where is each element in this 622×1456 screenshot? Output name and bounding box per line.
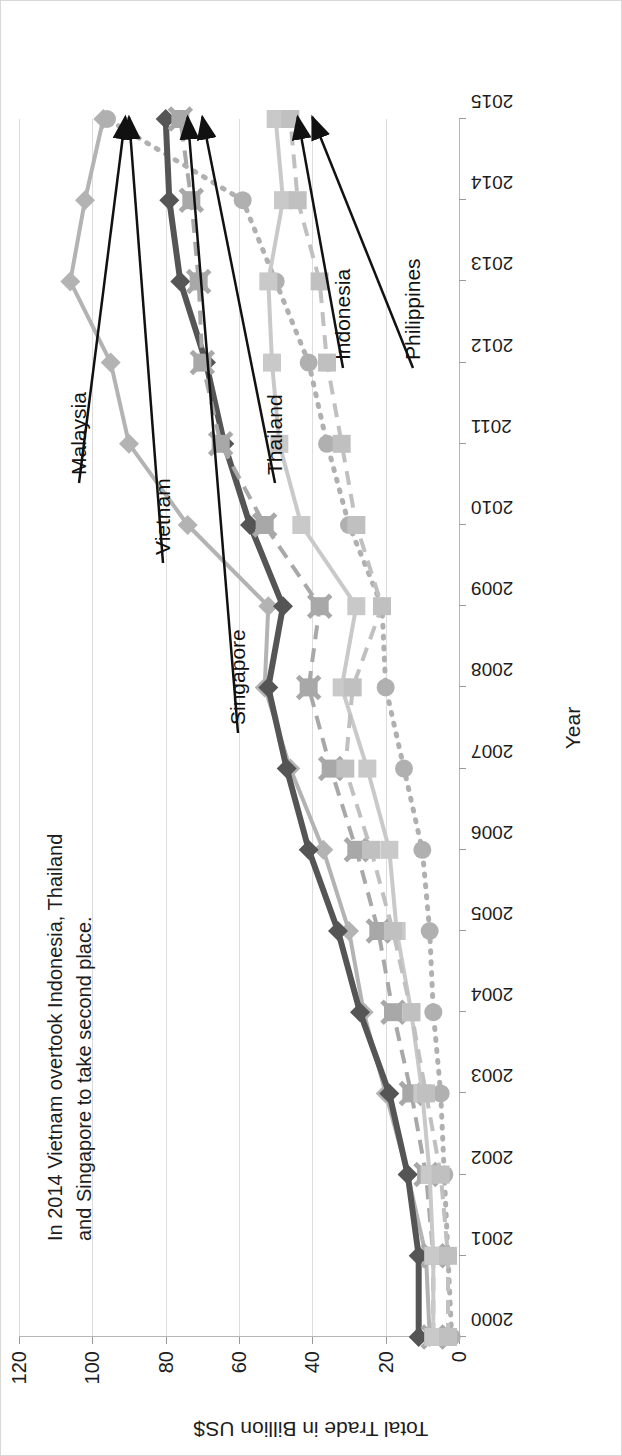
data-point (101, 353, 121, 373)
chart-stage: 020406080100120 200020012002200320042005… (0, 0, 622, 1456)
y-axis-tick (92, 1337, 93, 1344)
x-axis-tick (459, 443, 466, 444)
x-axis-tick-label: 2009 (471, 577, 513, 599)
y-axis-tick (19, 1337, 20, 1344)
x-axis-tick (459, 930, 466, 931)
series-label-indonesia: Indonesia (331, 269, 355, 360)
series-malaysia (60, 109, 439, 1347)
data-point (362, 841, 380, 859)
data-point (311, 272, 329, 290)
y-axis-tick (386, 1337, 387, 1344)
data-point (421, 922, 439, 940)
data-point (347, 597, 365, 615)
data-point (170, 271, 190, 291)
data-point (336, 760, 354, 778)
x-axis-tick (459, 1255, 466, 1256)
x-axis-tick-label: 2000 (471, 1308, 513, 1330)
data-point (384, 922, 402, 940)
data-point (382, 1001, 404, 1023)
y-axis-tick-label: 80 (155, 1351, 178, 1421)
data-point (188, 270, 210, 292)
data-point (439, 1247, 457, 1265)
data-point (417, 1084, 435, 1102)
data-point (169, 108, 191, 130)
x-axis-tick (459, 1174, 466, 1175)
x-axis-tick-label: 2005 (471, 902, 513, 924)
series-singapore (156, 109, 429, 1347)
data-point (439, 1328, 457, 1346)
data-point (191, 352, 213, 374)
data-point (377, 678, 395, 696)
x-axis-tick-label: 2004 (471, 983, 513, 1005)
data-point (159, 190, 179, 210)
data-point (299, 840, 319, 860)
x-axis-tick-label: 2015 (471, 90, 513, 112)
x-axis-tick (459, 280, 466, 281)
data-point (309, 595, 331, 617)
y-axis-title: Total Trade in Billion US$ (194, 1417, 429, 1441)
data-point (180, 189, 202, 211)
data-point (258, 677, 278, 697)
data-point (395, 760, 413, 778)
x-axis-tick-label: 2007 (471, 740, 513, 762)
data-point (380, 841, 398, 859)
data-point (300, 354, 318, 372)
data-point (98, 110, 116, 128)
x-axis-tick-label: 2008 (471, 658, 513, 680)
chart-page: 020406080100120 200020012002200320042005… (0, 0, 622, 1456)
y-axis-tick-label: 60 (228, 1351, 251, 1421)
x-axis-tick (459, 362, 466, 363)
x-axis-line (459, 119, 460, 1337)
x-axis-tick (459, 768, 466, 769)
y-axis-tick (166, 1337, 167, 1344)
chart-annotation: In 2014 Vietnam overtook Indonesia, Thai… (41, 821, 99, 1241)
data-point (75, 190, 95, 210)
data-point (373, 597, 391, 615)
x-axis-tick (459, 118, 466, 119)
data-point (402, 1003, 420, 1021)
series-label-thailand: Thailand (263, 394, 287, 475)
series-label-singapore: Singapore (226, 629, 250, 725)
x-axis-tick-label: 2011 (471, 415, 512, 437)
data-point (289, 191, 307, 209)
data-point (259, 272, 277, 290)
data-point (210, 433, 232, 455)
y-axis-tick-label: 120 (8, 1351, 31, 1421)
data-point (424, 1003, 442, 1021)
x-axis-tick (459, 1092, 466, 1093)
data-point (344, 678, 362, 696)
x-axis-tick (459, 199, 466, 200)
data-point (254, 514, 276, 536)
y-axis-tick (312, 1337, 313, 1344)
x-axis-tick-label: 2003 (471, 1064, 513, 1086)
data-point (298, 676, 320, 698)
data-point (432, 1166, 450, 1184)
series-label-malaysia: Malaysia (67, 392, 91, 475)
x-axis-tick (459, 1011, 466, 1012)
y-axis-tick-label: 40 (301, 1351, 324, 1421)
data-point (398, 1165, 418, 1185)
x-axis-tick-label: 2012 (471, 334, 513, 356)
y-axis-tick (239, 1337, 240, 1344)
x-axis-tick-label: 2014 (471, 171, 513, 193)
data-point (263, 354, 281, 372)
x-axis-tick (459, 849, 466, 850)
y-axis-tick-label: 20 (375, 1351, 398, 1421)
x-axis-tick (459, 605, 466, 606)
data-point (292, 516, 310, 534)
x-axis-tick-label: 2002 (471, 1146, 513, 1168)
series-philippines (281, 110, 457, 1346)
x-axis-tick-label: 2013 (471, 252, 513, 274)
x-axis-tick-label: 2001 (471, 1227, 513, 1249)
series-label-vietnam: Vietnam (151, 478, 175, 555)
data-point (60, 271, 80, 291)
y-axis-tick-label: 100 (81, 1351, 104, 1421)
x-axis-tick-label: 2006 (471, 821, 513, 843)
x-axis-tick-label: 2010 (471, 496, 513, 518)
data-point (347, 516, 365, 534)
x-axis-tick (459, 686, 466, 687)
data-point (358, 760, 376, 778)
data-point (234, 191, 252, 209)
x-axis-tick (459, 524, 466, 525)
data-point (281, 110, 299, 128)
